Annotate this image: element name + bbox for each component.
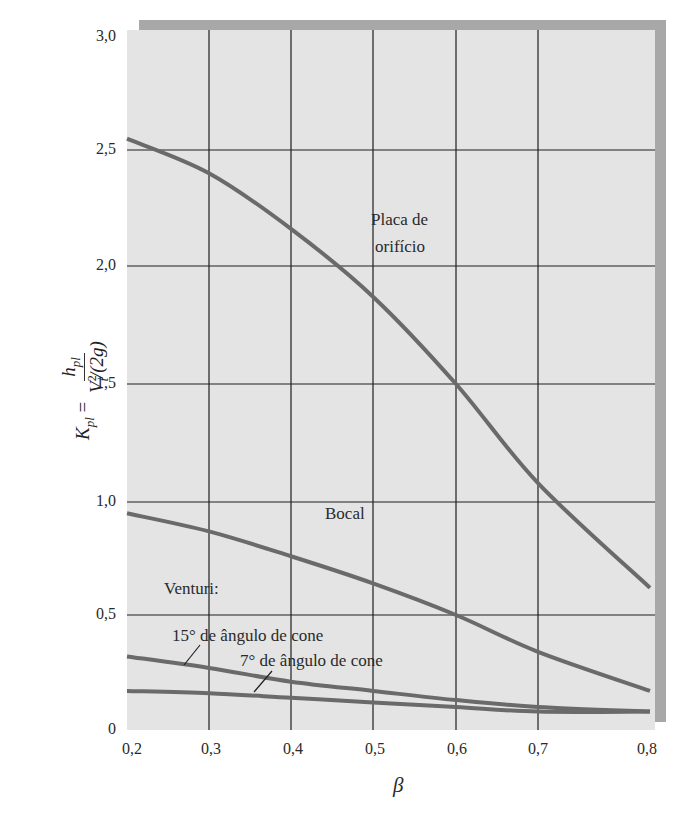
annotation-cone-7: 7° de ângulo de cone [240,652,383,671]
ylabel-den: V [86,381,107,393]
annotation-bocal: Bocal [325,505,365,524]
x-tick-0-2: 0,2 [112,740,152,758]
ylabel-fraction: hpl V2t/(2g) [58,337,112,397]
y-axis-label: Kpl = hpl V2t/(2g) [18,290,148,440]
y-tick-2-0: 2,0 [76,256,116,274]
x-axis-label: β [393,774,403,797]
ylabel-den-sub: t [97,378,111,381]
annotation-cone-15: 15° de ângulo de cone [172,627,323,646]
y-tick-0-5: 0,5 [76,605,116,623]
annotation-placa-line1: Placa de [371,211,428,230]
ylabel-den-rest: /(2g) [86,341,107,378]
annotation-placa-line2: orifício [375,238,425,257]
y-tick-0: 0 [76,720,116,738]
ylabel-lhs-sub: pl [82,417,97,427]
x-tick-0-8: 0,8 [627,740,667,758]
y-tick-2-5: 2,5 [76,140,116,158]
x-tick-0-7: 0,7 [518,740,558,758]
annotation-venturi: Venturi: [164,580,219,599]
ylabel-num: h [58,367,79,377]
x-tick-0-4: 0,4 [273,740,313,758]
ylabel-lhs: K [72,427,93,440]
ylabel-num-sub: pl [68,357,83,367]
plot-background [127,30,655,730]
y-tick-3-0: 3,0 [76,27,116,45]
y-tick-1-0: 1,0 [76,492,116,510]
x-tick-0-3: 0,3 [191,740,231,758]
x-tick-0-6: 0,6 [437,740,477,758]
x-tick-0-5: 0,5 [355,740,395,758]
